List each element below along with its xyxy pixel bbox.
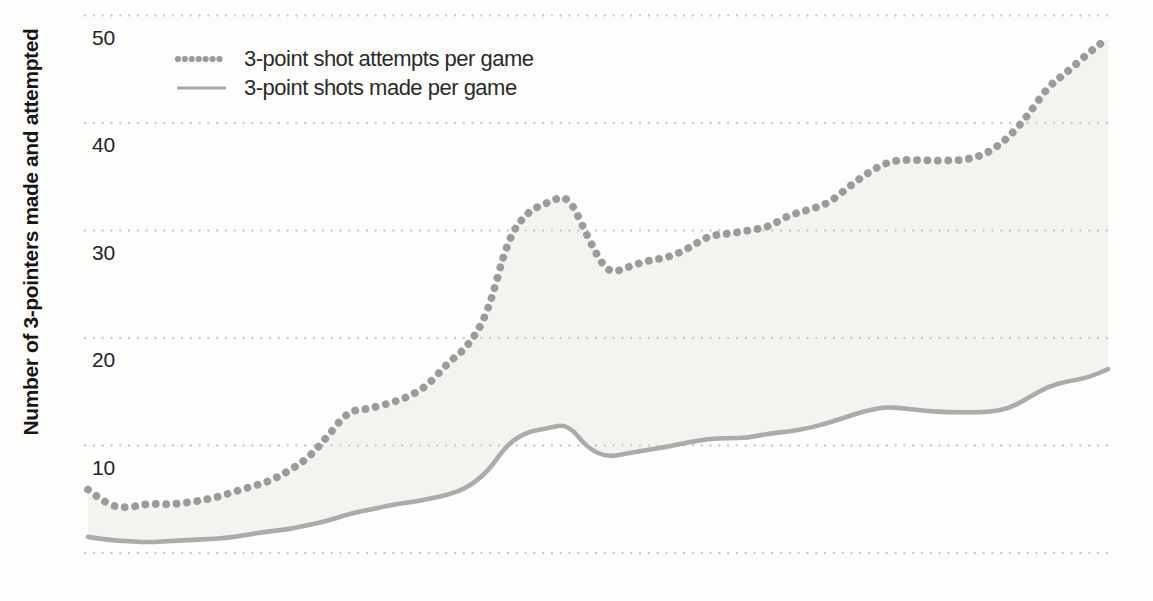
legend-label-attempts: 3-point shot attempts per game: [244, 46, 534, 72]
dotted-line-swatch: [174, 54, 228, 64]
y-tick-label-20: 20: [92, 348, 115, 372]
y-tick-label-40: 40: [92, 133, 115, 157]
chart-page: 1020304050 Number of 3-pointers made and…: [0, 0, 1153, 601]
legend: 3-point shot attempts per game 3-point s…: [174, 44, 534, 102]
y-tick-label-10: 10: [92, 456, 115, 480]
y-axis-title: Number of 3-pointers made and attempted: [19, 29, 43, 436]
y-tick-label-30: 30: [92, 241, 115, 265]
y-tick-label-50: 50: [92, 26, 115, 50]
legend-label-made: 3-point shots made per game: [244, 75, 517, 101]
chart-plot-area: [0, 0, 1153, 601]
fill-between-area: [88, 38, 1108, 542]
legend-item-made: 3-point shots made per game: [174, 73, 534, 102]
solid-line-swatch: [174, 83, 228, 93]
legend-item-attempts: 3-point shot attempts per game: [174, 44, 534, 73]
